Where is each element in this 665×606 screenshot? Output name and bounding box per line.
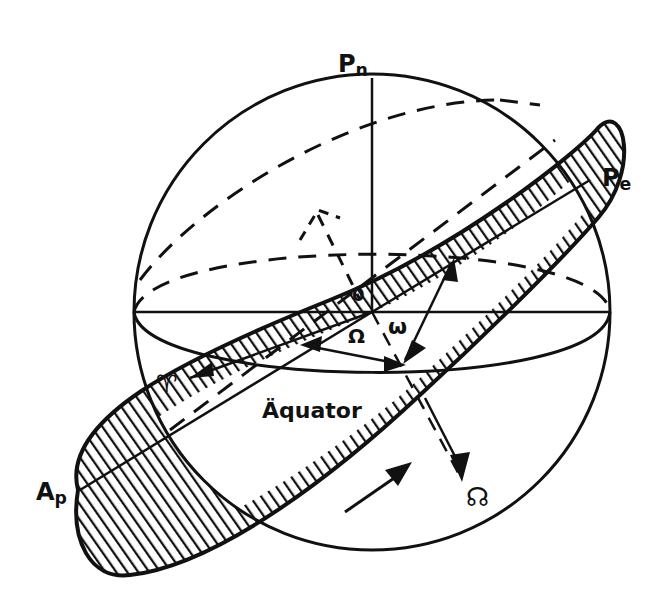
label-equator: Äquator <box>262 400 362 422</box>
diagram-drawing <box>0 0 665 606</box>
label-vernal-equinox: ♈ <box>156 372 178 396</box>
label-center: 0 <box>352 286 365 304</box>
label-argument-perihelion: ω <box>388 316 407 338</box>
orbital-elements-diagram: Pn Pe Ap 0 Ω ω ♈ Äquator ☊ <box>0 0 665 606</box>
motion-arrow <box>345 474 400 512</box>
label-perihelion: Pe <box>602 166 631 194</box>
label-descending-node: ☊ <box>466 484 489 510</box>
label-aphelion: Ap <box>36 480 67 508</box>
label-north-pole: Pn <box>338 52 368 80</box>
label-omega-node: Ω <box>348 326 365 346</box>
